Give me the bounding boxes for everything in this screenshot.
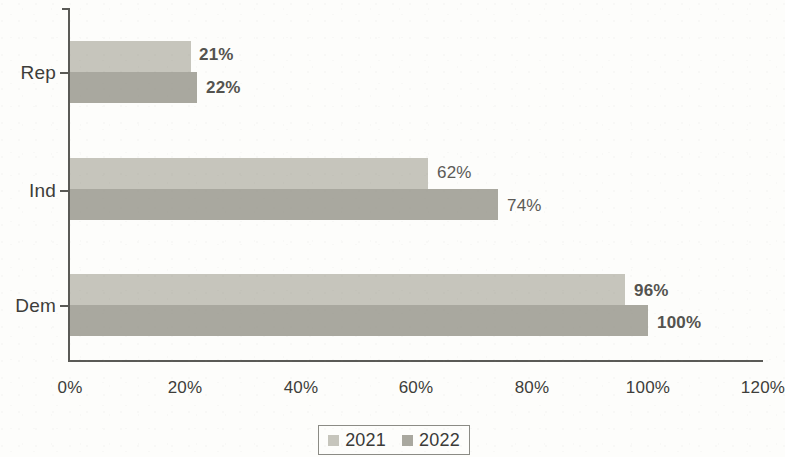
x-axis-line [68, 360, 763, 362]
bar-label-rep-2021: 21% [199, 45, 234, 65]
bar-ind-2021[interactable] [70, 158, 428, 189]
legend-label-2021: 2021 [345, 430, 386, 451]
bar-label-ind-2021: 62% [437, 163, 472, 183]
bar-ind-2022[interactable] [70, 189, 498, 220]
x-tick-label-60: 60% [376, 378, 456, 398]
x-tick-label-80: 80% [492, 378, 572, 398]
bar-label-dem-2021: 96% [634, 281, 669, 301]
y-axis-label-rep: Rep [2, 62, 56, 84]
legend-swatch-2021-icon [328, 435, 339, 446]
x-tick-label-100: 100% [608, 378, 688, 398]
bar-label-ind-2022: 74% [507, 196, 542, 216]
plot-area: Rep Ind Dem 21% 22% 62% 74% 96% 100% 0% … [0, 0, 785, 457]
y-axis-tick-ind [60, 190, 69, 192]
bar-dem-2021[interactable] [70, 274, 625, 305]
bar-chart: Rep Ind Dem 21% 22% 62% 74% 96% 100% 0% … [0, 0, 785, 457]
legend-item-2021[interactable]: 2021 [328, 430, 386, 451]
legend-item-2022[interactable]: 2022 [402, 430, 460, 451]
legend-swatch-2022-icon [402, 435, 413, 446]
bar-rep-2021[interactable] [70, 41, 191, 72]
legend-label-2022: 2022 [419, 430, 460, 451]
x-tick-label-20: 20% [145, 378, 225, 398]
chart-legend: 2021 2022 [318, 425, 470, 455]
x-tick-label-0: 0% [30, 378, 110, 398]
y-axis-label-ind: Ind [2, 180, 56, 202]
y-axis-tick-rep [60, 72, 69, 74]
y-axis-label-dem: Dem [2, 295, 56, 317]
x-tick-label-120: 120% [723, 378, 785, 398]
y-axis-tick-dem [60, 305, 69, 307]
bar-label-rep-2022: 22% [206, 78, 241, 98]
bar-dem-2022[interactable] [70, 305, 648, 336]
bar-rep-2022[interactable] [70, 72, 197, 103]
bar-label-dem-2022: 100% [657, 313, 701, 333]
y-axis-top-tick [62, 8, 69, 10]
x-tick-label-40: 40% [261, 378, 341, 398]
